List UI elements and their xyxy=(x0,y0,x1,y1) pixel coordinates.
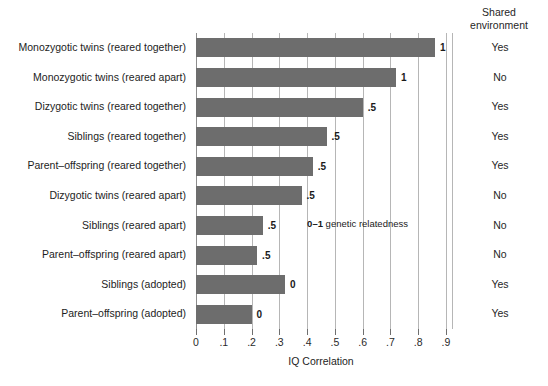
shared-environment-value: Yes xyxy=(453,307,547,319)
shared-environment-value: Yes xyxy=(453,41,547,53)
x-axis-tick xyxy=(363,329,364,335)
x-axis-tick-label: .1 xyxy=(209,336,239,348)
shared-environment-column: YesNoYesYesYesNoNoNoYesYes xyxy=(453,33,547,329)
bar xyxy=(196,246,257,265)
bar xyxy=(196,68,396,87)
category-label: Monozygotic twins (reared apart) xyxy=(0,71,186,83)
iq-correlation-chart: Shared environment Monozygotic twins (re… xyxy=(0,0,548,386)
category-label: Siblings (reared together) xyxy=(0,130,186,142)
x-axis-tick xyxy=(418,329,419,335)
gridline xyxy=(418,33,419,329)
shared-environment-value: Yes xyxy=(453,278,547,290)
x-axis-tick xyxy=(335,329,336,335)
x-axis-tick xyxy=(252,329,253,335)
x-axis-tick-label: .9 xyxy=(431,336,461,348)
x-axis-label: IQ Correlation xyxy=(196,355,446,367)
category-label: Dizygotic twins (reared apart) xyxy=(0,189,186,201)
x-axis-tick xyxy=(446,329,447,335)
x-axis-tick-label: .6 xyxy=(348,336,378,348)
x-axis-tick xyxy=(390,329,391,335)
shared-environment-header-line2: environment xyxy=(452,19,546,32)
bar xyxy=(196,157,313,176)
x-axis-tick-label: .2 xyxy=(237,336,267,348)
category-label: Dizygotic twins (reared together) xyxy=(0,100,186,112)
shared-environment-value: Yes xyxy=(453,130,547,142)
category-label: Parent–offspring (reared together) xyxy=(0,159,186,171)
bar xyxy=(196,38,435,57)
x-axis-tick-label: .4 xyxy=(292,336,322,348)
x-axis-tick xyxy=(279,329,280,335)
x-axis-tick-label: .8 xyxy=(403,336,433,348)
bar xyxy=(196,186,302,205)
annotation-text: genetic relatedness xyxy=(323,218,408,229)
shared-environment-value: No xyxy=(453,189,547,201)
x-axis-tick-label: .3 xyxy=(264,336,294,348)
bar xyxy=(196,216,263,235)
bar-value-label: .5 xyxy=(262,250,270,261)
x-axis-tick-label: .5 xyxy=(320,336,350,348)
annotation-range: 0–1 xyxy=(307,218,323,229)
bar-value-label: .5 xyxy=(332,131,340,142)
category-label: Parent–offspring (adopted) xyxy=(0,307,186,319)
x-axis-tick xyxy=(307,329,308,335)
bar-value-label: .5 xyxy=(268,220,276,231)
category-label: Siblings (adopted) xyxy=(0,278,186,290)
bar-value-label: 1 xyxy=(440,42,446,53)
x-axis-tick-label: 0 xyxy=(181,336,211,348)
category-label-column: Monozygotic twins (reared together)Monoz… xyxy=(0,33,192,329)
shared-environment-value: No xyxy=(453,219,547,231)
x-axis-tick-label: .7 xyxy=(375,336,405,348)
bar-value-label: .5 xyxy=(307,190,315,201)
gridline xyxy=(446,33,447,329)
shared-environment-value: Yes xyxy=(453,100,547,112)
shared-environment-header: Shared environment xyxy=(452,6,546,32)
x-axis-tick xyxy=(224,329,225,335)
bar xyxy=(196,305,252,324)
bar-value-label: .5 xyxy=(318,161,326,172)
plot-area: 0.1.2.3.4.5.6.7.8.911.5.5.5.5.5.5000–1 g… xyxy=(196,33,446,329)
shared-environment-value: No xyxy=(453,71,547,83)
category-label: Monozygotic twins (reared together) xyxy=(0,41,186,53)
category-label: Siblings (reared apart) xyxy=(0,219,186,231)
bar-value-label: 0 xyxy=(290,279,296,290)
shared-environment-value: No xyxy=(453,248,547,260)
bar xyxy=(196,275,285,294)
genetic-relatedness-annotation: 0–1 genetic relatedness xyxy=(307,218,408,229)
bar-value-label: 1 xyxy=(401,72,407,83)
x-axis-tick xyxy=(196,329,197,335)
shared-environment-value: Yes xyxy=(453,159,547,171)
bar xyxy=(196,98,363,117)
category-label: Parent–offspring (reared apart) xyxy=(0,248,186,260)
shared-environment-header-line1: Shared xyxy=(452,6,546,19)
bar-value-label: 0 xyxy=(257,309,263,320)
bar xyxy=(196,127,327,146)
bar-value-label: .5 xyxy=(368,102,376,113)
